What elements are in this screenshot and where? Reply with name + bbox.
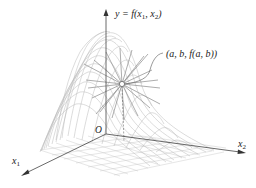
surface-mesh-flat: [40, 133, 226, 176]
tangent-point: [119, 81, 124, 86]
y-axis-arrow-icon: [104, 9, 109, 16]
x1-axis-arrow-icon: [21, 170, 30, 177]
y-axis-label: y = f(x1, x2): [114, 8, 162, 21]
point-label: (a, b, f(a, b)): [166, 48, 218, 60]
x1-axis-label: x1: [11, 155, 20, 168]
x2-axis: [106, 134, 240, 152]
label-leader-line: [125, 53, 163, 84]
origin-label: O: [95, 125, 102, 135]
x2-axis-label: x2: [237, 138, 246, 151]
x1-axis: [26, 134, 106, 173]
axes: [21, 9, 246, 176]
surface-diagram: y = f(x1, x2) (a, b, f(a, b)) O x1 x2: [0, 0, 256, 188]
